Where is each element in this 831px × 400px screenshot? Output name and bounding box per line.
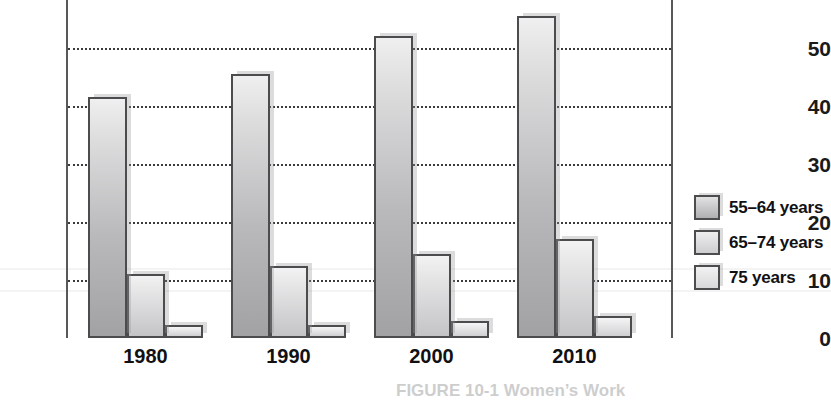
bar xyxy=(594,316,632,338)
legend-swatch-icon xyxy=(694,195,720,220)
y-tick-label: 0 xyxy=(777,328,831,349)
y-tick-label: 50 xyxy=(777,38,831,59)
bar xyxy=(231,74,270,338)
legend-label: 75 years xyxy=(729,268,795,288)
legend-label: 65–74 years xyxy=(729,233,823,253)
bar xyxy=(413,254,451,338)
legend-item: 75 years xyxy=(694,260,831,295)
gridline xyxy=(68,106,671,108)
figure-caption: FIGURE 10-1 Women’s Work xyxy=(396,381,625,400)
y-tick-label: 30 xyxy=(777,154,831,175)
bar xyxy=(556,239,594,338)
plot-right-border xyxy=(671,0,673,338)
bar xyxy=(88,97,127,338)
gridline xyxy=(68,48,671,50)
gridline xyxy=(68,164,671,166)
bar xyxy=(308,325,346,338)
bar xyxy=(270,266,308,339)
bar xyxy=(374,36,413,338)
gridline xyxy=(68,222,671,224)
legend-item: 65–74 years xyxy=(694,225,831,260)
plot-area xyxy=(66,0,673,338)
legend-swatch-icon xyxy=(694,230,720,255)
legend-label: 55–64 years xyxy=(729,198,823,218)
x-tick-label: 2010 xyxy=(487,346,662,366)
bar xyxy=(127,274,165,338)
bar xyxy=(165,325,203,338)
legend-swatch-icon xyxy=(694,265,720,290)
bar xyxy=(517,16,556,338)
chart-legend: 55–64 years65–74 years75 years xyxy=(694,190,831,295)
y-tick-label: 40 xyxy=(777,96,831,117)
legend-item: 55–64 years xyxy=(694,190,831,225)
bar xyxy=(451,321,489,338)
y-axis-line xyxy=(66,0,68,338)
